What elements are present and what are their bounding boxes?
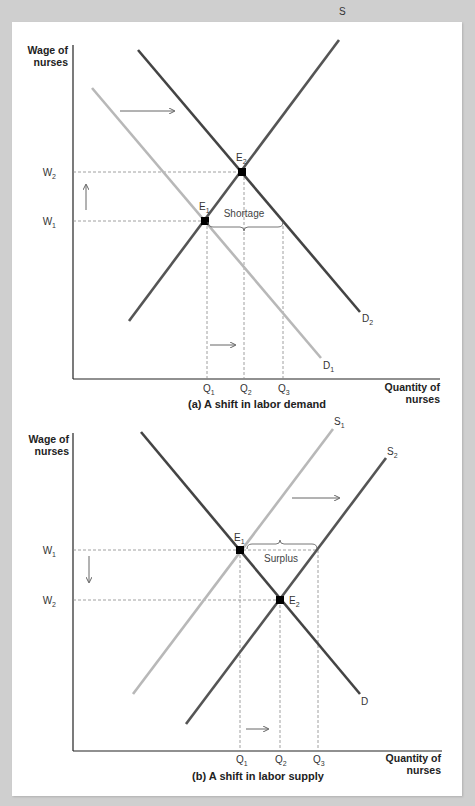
- chart-b-s2-label: S2: [387, 446, 398, 459]
- chart-a-q1-label: Q1: [203, 383, 215, 396]
- chart-b-ylabel-line2: nurses: [35, 445, 70, 457]
- chart-b-supply-curve-s1: [133, 429, 333, 694]
- chart-b-d-label: D: [361, 696, 368, 707]
- chart-a-w2-label: W2: [43, 167, 56, 180]
- chart-b-w1-label: W1: [43, 545, 56, 558]
- chart-a-xlabel-line1: Quantity of: [385, 381, 441, 393]
- chart-b-q1-label: Q1: [236, 754, 248, 767]
- chart-a-shortage-label: Shortage: [224, 208, 265, 219]
- chart-b-q2-label: Q2: [275, 754, 287, 767]
- chart-a-q3-label: Q3: [278, 383, 290, 396]
- chart-b-equilibrium-e1: [236, 546, 244, 554]
- chart-a-w1-label: W1: [43, 216, 56, 229]
- chart-a-e2-label: E2: [236, 152, 247, 165]
- chart-a-d2-label: D2: [362, 313, 373, 326]
- chart-a-labor-demand: Wage of nurses Quantity of nurses Shorta…: [28, 6, 441, 410]
- chart-b-s1-label: S1: [334, 416, 345, 429]
- chart-b-labor-supply: Wage of nurses Quantity of nurses Surplu…: [29, 416, 442, 782]
- chart-b-surplus-brace: [247, 540, 317, 549]
- chart-a-caption: (a) A shift in labor demand: [188, 398, 326, 410]
- chart-a-supply-curve-s: [129, 40, 339, 321]
- chart-b-supply-curve-s2: [186, 458, 386, 724]
- chart-a-ylabel-line2: nurses: [34, 56, 69, 68]
- chart-b-e1-label: E1: [234, 532, 245, 545]
- chart-b-ylabel-line1: Wage of: [29, 433, 70, 445]
- chart-b-xlabel-line2: nurses: [407, 764, 442, 776]
- chart-b-caption: (b) A shift in labor supply: [192, 770, 325, 782]
- chart-b-demand-curve-d: [141, 432, 360, 694]
- chart-b-e2-label: E2: [289, 595, 300, 608]
- chart-a-shortage-brace: [208, 222, 283, 231]
- chart-a-e1-label: E1: [199, 201, 210, 214]
- charts-canvas: Wage of nurses Quantity of nurses Shorta…: [0, 0, 475, 806]
- chart-b-w2-label: W2: [43, 595, 56, 608]
- chart-b-equilibrium-e2: [276, 596, 284, 604]
- chart-a-ylabel-line1: Wage of: [28, 44, 69, 56]
- chart-a-xlabel-line2: nurses: [406, 393, 441, 405]
- chart-a-equilibrium-e2: [238, 168, 246, 176]
- chart-b-q3-label: Q3: [313, 754, 325, 767]
- chart-a-q2-label: Q2: [240, 383, 252, 396]
- chart-b-surplus-label: Surplus: [264, 553, 298, 564]
- chart-b-xlabel-line1: Quantity of: [386, 752, 442, 764]
- chart-a-s-curve-label: S: [339, 6, 346, 17]
- chart-b-guides: [73, 550, 318, 751]
- chart-a-d1-label: D1: [323, 360, 334, 373]
